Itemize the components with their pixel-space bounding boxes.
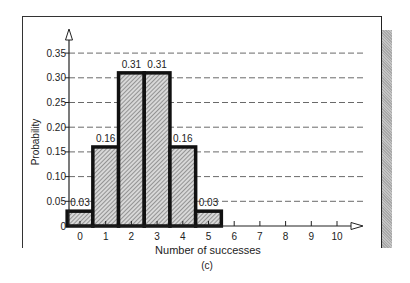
x-tick-label: 9 [309, 231, 315, 242]
y-tick-label: 0.35 [47, 48, 67, 59]
x-axis-title: Number of successes [155, 244, 261, 256]
bar-4 [170, 147, 196, 226]
y-tick-label: 0.30 [47, 72, 67, 83]
bar-1 [93, 147, 119, 226]
y-tick-label: 0.10 [47, 171, 67, 182]
x-tick-labels: 012345678910 [77, 231, 343, 242]
y-axis-title: Probability [30, 119, 41, 166]
x-tick-label: 7 [257, 231, 263, 242]
bar-label: 0.16 [96, 133, 116, 144]
bar-label: 0.16 [173, 133, 193, 144]
y-tick-label: 0 [60, 221, 66, 232]
x-tick-label: 8 [283, 231, 289, 242]
y-tick-label: 0.05 [47, 196, 67, 207]
bar-label: 0.31 [147, 59, 167, 70]
x-tick-label: 4 [180, 231, 186, 242]
x-tick-label: 10 [331, 231, 343, 242]
x-tick-label: 2 [129, 231, 135, 242]
x-axis-arrow-icon [351, 223, 363, 230]
plot-area: 00.050.100.150.200.250.300.35 0123456789… [0, 0, 410, 283]
y-tick-label: 0.15 [47, 146, 67, 157]
bar-2 [119, 73, 145, 226]
bar-label: 0.31 [122, 59, 142, 70]
x-tick-label: 3 [154, 231, 160, 242]
y-axis-arrow-icon [66, 29, 73, 40]
y-tick-label: 0.25 [47, 97, 67, 108]
x-tick-label: 0 [77, 231, 83, 242]
bar-label: 0.03 [70, 197, 90, 208]
figure-caption: (c) [201, 260, 213, 271]
x-tick-label: 6 [231, 231, 237, 242]
x-tick-label: 1 [103, 231, 109, 242]
y-tick-labels: 00.050.100.150.200.250.300.35 [47, 48, 67, 232]
y-tick-label: 0.20 [47, 122, 67, 133]
bar-label: 0.03 [199, 197, 219, 208]
x-tick-label: 5 [206, 231, 212, 242]
bar-3 [144, 73, 170, 226]
chart-figure: 00.050.100.150.200.250.300.35 0123456789… [0, 0, 410, 283]
